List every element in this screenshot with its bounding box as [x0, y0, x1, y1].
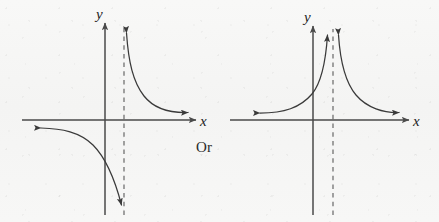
left-y-axis-label: y	[94, 6, 103, 22]
left-graph-panel: y x	[22, 6, 207, 215]
left-branch-upper-right	[127, 33, 189, 113]
right-graph-panel: y x	[230, 9, 420, 215]
right-x-axis-label: x	[412, 113, 420, 129]
left-x-axis-label: x	[199, 113, 207, 129]
left-branch-lower-left	[41, 128, 122, 205]
or-connector-text: Or	[196, 140, 212, 155]
figure-container: y x y x Or	[0, 0, 439, 222]
right-y-axis-label: y	[302, 9, 311, 25]
right-branch-left	[260, 35, 328, 113]
right-branch-right	[339, 35, 400, 113]
graph-figure-svg: y x y x	[0, 0, 439, 222]
